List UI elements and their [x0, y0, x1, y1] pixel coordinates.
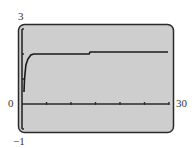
screen-frame	[19, 25, 174, 133]
calculator-screen	[0, 0, 192, 148]
